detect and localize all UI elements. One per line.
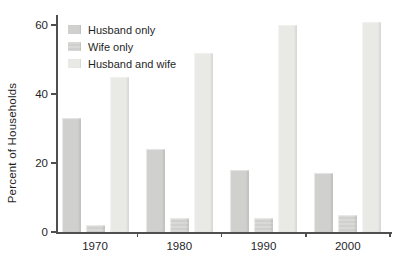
x-tick-after-1980	[221, 232, 223, 237]
y-tick-label-20: 20	[22, 157, 48, 169]
legend: Husband onlyWife onlyHusband and wife	[68, 21, 176, 72]
y-tick-label-60: 60	[22, 19, 48, 31]
y-tick-40	[51, 93, 56, 95]
y-axis-line	[56, 15, 58, 233]
legend-label-wife-only: Wife only	[88, 41, 133, 53]
y-tick-label-0: 0	[22, 226, 48, 238]
y-axis-title: Percent of Households	[6, 73, 18, 213]
bar-1990-husband-only	[230, 170, 249, 232]
bar-2000-husband-only	[314, 173, 333, 232]
x-tick-after-1990	[305, 232, 307, 237]
y-tick-20	[51, 162, 56, 164]
bar-1970-wife-only	[86, 225, 105, 232]
legend-label-husband-only: Husband only	[88, 24, 155, 36]
legend-swatch-husband-and-wife	[68, 59, 81, 68]
x-category-label-1980: 1980	[137, 240, 221, 252]
legend-item-husband-and-wife: Husband and wife	[68, 55, 176, 72]
legend-item-wife-only: Wife only	[68, 38, 176, 55]
x-axis-line	[56, 232, 392, 234]
y-tick-label-40: 40	[22, 88, 48, 100]
bar-1980-husband-and-wife	[194, 53, 213, 232]
bar-1970-husband-and-wife	[110, 77, 129, 232]
y-tick-60	[51, 24, 56, 26]
x-tick-after-2000	[389, 232, 391, 237]
bar-2000-husband-and-wife	[362, 22, 381, 232]
x-category-label-1990: 1990	[222, 240, 306, 252]
x-category-label-2000: 2000	[306, 240, 390, 252]
legend-label-husband-and-wife: Husband and wife	[88, 58, 176, 70]
x-category-label-1970: 1970	[53, 240, 137, 252]
legend-swatch-wife-only	[68, 42, 81, 51]
bar-1990-husband-and-wife	[278, 25, 297, 232]
x-tick-after-1970	[137, 232, 139, 237]
bar-1970-husband-only	[62, 118, 81, 232]
legend-item-husband-only: Husband only	[68, 21, 176, 38]
bar-1980-husband-only	[146, 149, 165, 232]
legend-swatch-husband-only	[68, 25, 81, 34]
bar-1990-wife-only	[254, 218, 273, 232]
y-tick-0	[51, 231, 56, 233]
bar-1980-wife-only	[170, 218, 189, 232]
bar-2000-wife-only	[338, 215, 357, 232]
bar-chart: Percent of Households 020406019701980199…	[0, 0, 417, 269]
